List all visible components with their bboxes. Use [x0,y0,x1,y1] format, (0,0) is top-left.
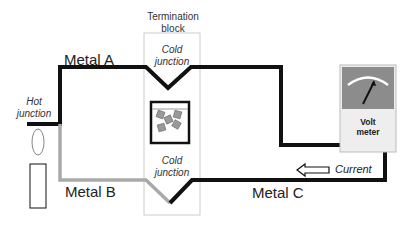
candle-icon [30,129,46,208]
metal-a-label: Metal A [64,52,114,67]
cold-junction-bottom-line2: junction [144,167,200,179]
thermocouple-diagram [0,0,410,225]
hot-junction-line1: Hot [14,96,54,108]
hot-junction-line2: junction [14,108,54,120]
metal-c-label: Metal C [252,185,304,200]
current-arrow-icon [297,164,329,176]
cold-junction-top-line1: Cold [144,44,200,56]
metal-b-label: Metal B [65,184,116,199]
termination-block-label-line2: block [143,23,203,35]
ice-bath-icon [151,102,189,143]
cold-junction-top-label: Cold junction [144,44,200,68]
voltmeter-icon [340,65,396,152]
voltmeter-label-line2: meter [340,127,396,137]
termination-block-label-line1: Termination [143,11,203,23]
cold-junction-bottom-line1: Cold [144,155,200,167]
current-label: Current [335,164,372,175]
hot-junction-label: Hot junction [14,96,54,120]
cold-junction-bottom-label: Cold junction [144,155,200,179]
voltmeter-label-line1: Volt [340,117,396,127]
cold-junction-top-line2: junction [144,56,200,68]
termination-block-label: Termination block [143,11,203,35]
voltmeter-label: Volt meter [340,117,396,137]
